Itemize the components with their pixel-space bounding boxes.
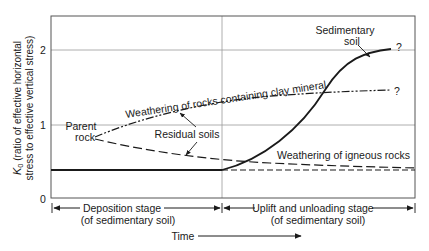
question-mark-sedimentary: ? bbox=[396, 41, 402, 53]
y-axis-title: K0 (ratio of effective horizontal stress… bbox=[11, 36, 35, 181]
sedimentary-soil-label-line2: soil bbox=[344, 35, 360, 47]
deposition-stage-label-line1: Deposition stage bbox=[83, 202, 161, 214]
y-tick-2: 2 bbox=[40, 44, 46, 56]
uplift-stage-label-line1: Uplift and unloading stage bbox=[252, 202, 374, 214]
svg-text:K0 (ratio of effective horizon: K0 (ratio of effective horizontal bbox=[11, 41, 25, 175]
residual-soils-label: Residual soils bbox=[155, 128, 220, 140]
igneous-rocks-label: Weathering of igneous rocks bbox=[277, 149, 410, 161]
time-label: Time bbox=[172, 230, 195, 242]
y-tick-1: 1 bbox=[40, 119, 46, 131]
y-tick-0: 0 bbox=[40, 193, 46, 205]
deposition-stage-label-line2: (of sedimentary soil) bbox=[81, 214, 176, 226]
residual-arrow-down bbox=[186, 142, 197, 155]
k0-time-diagram: 2 1 0 K0 (ratio of effective horizontal … bbox=[0, 0, 429, 251]
uplift-stage-label-line2: (of sedimentary soil) bbox=[271, 214, 366, 226]
svg-text:stress to effective vertical s: stress to effective vertical stress) bbox=[24, 36, 35, 181]
clay-mineral-label: Weathering of rocks containing clay mine… bbox=[125, 78, 327, 120]
question-mark-clay: ? bbox=[394, 85, 400, 97]
parent-rock-label-line2: rock bbox=[75, 131, 96, 143]
